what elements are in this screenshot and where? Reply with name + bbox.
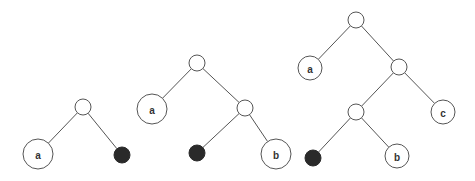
tree-edge [203, 113, 239, 147]
tree-edge [88, 113, 117, 149]
node-label: c [440, 108, 446, 119]
internal-node [348, 104, 364, 120]
tree-diagram: aabacb [0, 0, 475, 181]
tree-edge [203, 68, 239, 102]
filled-node [305, 150, 321, 166]
tree-edge [361, 26, 393, 61]
tree-edge [405, 73, 435, 104]
tree-edge [318, 26, 350, 60]
internal-node [348, 12, 364, 28]
tree-edge [48, 113, 77, 143]
tree-3: acb [298, 12, 455, 168]
tree-edge [162, 69, 191, 99]
tree-edge [362, 73, 394, 106]
tree-1: a [23, 99, 130, 169]
tree-edge [361, 118, 388, 147]
filled-node [114, 147, 130, 163]
internal-node [75, 99, 91, 115]
tree-2: ab [137, 55, 291, 169]
internal-node [189, 55, 205, 71]
tree-edge [318, 118, 350, 152]
node-label: b [273, 150, 279, 161]
filled-node [189, 145, 205, 161]
internal-node [237, 100, 253, 116]
node-label: a [35, 150, 41, 161]
tree-edge [249, 115, 267, 142]
internal-node [391, 59, 407, 75]
node-label: a [149, 105, 155, 116]
node-label: b [394, 152, 400, 163]
node-label: a [307, 64, 313, 75]
